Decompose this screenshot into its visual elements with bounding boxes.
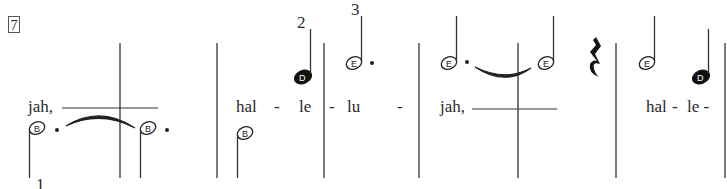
lyric-syllable: jah, xyxy=(27,97,53,116)
svg-text:E: E xyxy=(543,59,549,69)
lyric-hyphen: - xyxy=(672,97,678,116)
note-e: E xyxy=(637,16,657,72)
dot-icon xyxy=(370,61,374,65)
svg-text:E: E xyxy=(351,59,357,69)
finger-number: 1 xyxy=(36,175,45,189)
lyric-hyphen: - xyxy=(329,97,335,116)
measure-number: 7 xyxy=(11,18,18,33)
note-d: D xyxy=(690,29,712,87)
svg-text:B: B xyxy=(34,124,40,134)
lyrics: jah, hal - le - lu - jah, hal - le - xyxy=(27,97,710,116)
lyric-hyphen: - xyxy=(397,97,403,116)
lyric-syllable: hal xyxy=(646,97,667,116)
svg-text:B: B xyxy=(242,129,248,139)
svg-text:E: E xyxy=(644,59,650,69)
quarter-rest-icon xyxy=(590,37,601,77)
bar-lines xyxy=(120,43,725,178)
note-d: D 2 xyxy=(292,13,314,87)
lyric-syllable: le - xyxy=(687,97,710,116)
svg-text:D: D xyxy=(697,73,704,83)
svg-text:B: B xyxy=(145,124,151,134)
note-e: E xyxy=(439,16,469,72)
lyric-hyphen: - xyxy=(274,97,280,116)
lyric-syllable: hal xyxy=(236,97,257,116)
tie-icon xyxy=(66,116,135,128)
tie-icon xyxy=(475,67,531,77)
lyric-syllable: jah, xyxy=(439,97,465,116)
finger-number: 3 xyxy=(351,0,360,19)
dot-icon xyxy=(465,60,469,64)
lyric-syllable: lu xyxy=(347,97,361,116)
lyric-syllable: le xyxy=(299,97,311,116)
note-e: E 3 xyxy=(344,0,374,72)
sheet-music: 7 B B B D 2 xyxy=(0,0,727,189)
note-b: B xyxy=(27,119,59,178)
note-b: B xyxy=(235,124,255,178)
dot-icon xyxy=(165,128,169,132)
svg-text:E: E xyxy=(446,59,452,69)
dot-icon xyxy=(55,128,59,132)
measure-number-box: 7 xyxy=(9,17,20,34)
svg-text:D: D xyxy=(299,73,306,83)
note-b: B xyxy=(138,119,169,178)
finger-number: 2 xyxy=(297,13,306,32)
note-e: E xyxy=(536,16,556,72)
